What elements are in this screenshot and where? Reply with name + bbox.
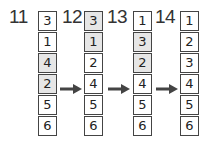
array-cell: 1 <box>180 11 199 31</box>
array-cell: 3 <box>38 11 57 31</box>
array-cell: 4 <box>84 74 103 94</box>
array-cell: 4 <box>180 74 199 94</box>
array-cell-highlighted: 1 <box>84 32 103 52</box>
array-cell: 4 <box>133 74 152 94</box>
right-arrow-icon <box>60 84 82 94</box>
array-cell: 1 <box>38 32 57 52</box>
array-cell-highlighted: 2 <box>133 53 152 73</box>
array-cell: 6 <box>38 116 57 136</box>
step-label-13: 13 <box>107 6 127 28</box>
array-cell-highlighted: 4 <box>38 53 57 73</box>
array-cell: 2 <box>180 32 199 52</box>
array-cell: 6 <box>84 116 103 136</box>
array-cell: 1 <box>133 11 152 31</box>
array-cell: 5 <box>180 95 199 115</box>
array-cell: 5 <box>38 95 57 115</box>
array-cell-highlighted: 3 <box>84 11 103 31</box>
array-cell-highlighted: 3 <box>133 32 152 52</box>
step-label-14: 14 <box>155 6 175 28</box>
array-cell: 6 <box>180 116 199 136</box>
array-cell: 5 <box>84 95 103 115</box>
array-cell: 5 <box>133 95 152 115</box>
right-arrow-icon <box>156 84 178 94</box>
array-cell: 2 <box>84 53 103 73</box>
array-cell: 6 <box>133 116 152 136</box>
right-arrow-icon <box>108 84 130 94</box>
step-label-11: 11 <box>9 6 28 28</box>
array-cell-highlighted: 2 <box>38 74 57 94</box>
array-cell: 3 <box>180 53 199 73</box>
step-label-12: 12 <box>62 6 82 28</box>
